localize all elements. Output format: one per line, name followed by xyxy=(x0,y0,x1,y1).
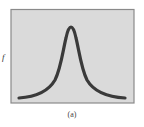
figure-caption: (a) xyxy=(0,110,144,119)
y-axis-label: f xyxy=(2,52,5,62)
plot-background xyxy=(11,10,134,104)
plot-area xyxy=(0,0,144,127)
